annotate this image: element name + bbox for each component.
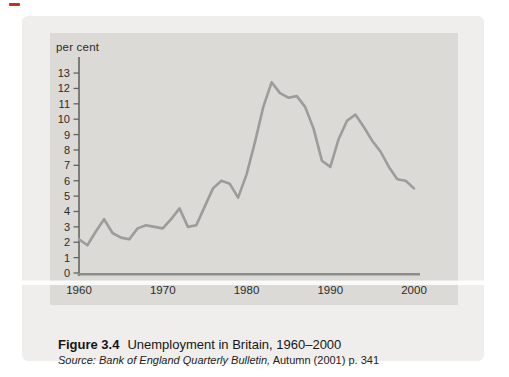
source-detail: Autumn (2001) p. 341 bbox=[270, 354, 379, 366]
page: Figure 3.4Unemployment in Britain, 1960–… bbox=[0, 0, 509, 377]
source-citation: Source: Bank of England Quarterly Bullet… bbox=[58, 354, 270, 366]
figure-caption: Figure 3.4Unemployment in Britain, 1960–… bbox=[58, 337, 341, 352]
figure-number: Figure 3.4 bbox=[58, 337, 119, 352]
figure-source: Source: Bank of England Quarterly Bullet… bbox=[58, 354, 379, 366]
red-scan-mark bbox=[9, 3, 20, 6]
y-axis-title: per cent bbox=[56, 41, 99, 53]
figure-title: Unemployment in Britain, 1960–2000 bbox=[127, 337, 341, 352]
chart-panel bbox=[50, 33, 458, 305]
